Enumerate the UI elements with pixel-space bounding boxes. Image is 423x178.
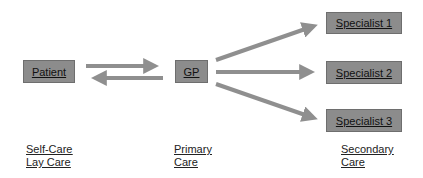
node-specialist-3: Specialist 3 (326, 109, 402, 132)
level-primary-line1: Primary (174, 143, 212, 156)
node-gp-label: GP (184, 66, 200, 78)
level-self-care-line1: Self-Care (26, 143, 72, 156)
node-gp: GP (175, 60, 208, 83)
level-self-care-line2: Lay Care (26, 156, 72, 169)
node-specialist-3-label: Specialist 3 (336, 115, 392, 127)
level-self-care: Self-Care Lay Care (26, 143, 72, 169)
arrow-gp-to-specialist-1 (216, 27, 311, 60)
level-secondary-line2: Care (341, 156, 394, 169)
node-specialist-2-label: Specialist 2 (336, 67, 392, 79)
level-secondary-line1: Secondary (341, 143, 394, 156)
node-patient: Patient (23, 60, 75, 83)
level-secondary-care: Secondary Care (341, 143, 394, 169)
level-primary-care: Primary Care (174, 143, 212, 169)
node-specialist-1: Specialist 1 (326, 12, 402, 34)
node-specialist-2: Specialist 2 (326, 61, 402, 84)
node-patient-label: Patient (32, 66, 66, 78)
level-primary-line2: Care (174, 156, 212, 169)
arrow-gp-to-specialist-3 (216, 84, 311, 117)
node-specialist-1-label: Specialist 1 (336, 17, 392, 29)
